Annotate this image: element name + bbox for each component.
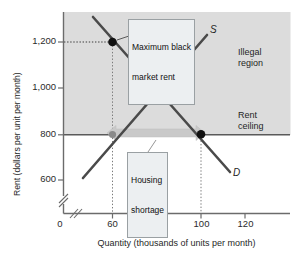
quantity-demanded-marker bbox=[197, 130, 206, 139]
supply-curve-label: S bbox=[210, 24, 217, 35]
rent-ceiling-label-line2: ceiling bbox=[238, 121, 264, 131]
y-tick-label-800: 800 bbox=[16, 129, 56, 140]
rent-ceiling-label-line1: Rent bbox=[238, 110, 257, 120]
housing-shortage-callout-line1: Housing bbox=[131, 175, 164, 185]
max-black-market-rent-callout: Maximum black market rent bbox=[128, 19, 195, 105]
x-tick-label-120: 120 bbox=[234, 219, 257, 230]
x-tick-label-0: 0 bbox=[52, 219, 68, 230]
x-tick-label-100: 100 bbox=[190, 219, 213, 230]
housing-shortage-callout-line2: shortage bbox=[131, 205, 164, 215]
y-tick-label-600: 600 bbox=[16, 174, 56, 185]
max-black-market-rent-marker bbox=[108, 38, 117, 47]
x-tick-label-60: 60 bbox=[103, 219, 122, 230]
x-axis-title: Quantity (thousands of units per month) bbox=[63, 238, 290, 248]
y-tick-marks bbox=[58, 42, 64, 180]
housing-shortage-leader-line bbox=[148, 140, 156, 152]
max-rent-callout-line2: market rent bbox=[132, 72, 191, 82]
demand-curve-label: D bbox=[233, 167, 240, 178]
housing-shortage-callout: Housing shortage bbox=[127, 152, 168, 238]
illegal-region-label-line2: region bbox=[238, 58, 263, 68]
illegal-region-label-line1: Illegal bbox=[238, 47, 262, 57]
y-axis-title: Rent (dollars per unit per month) bbox=[12, 72, 22, 196]
rent-ceiling-chart: 1,200 1,000 800 600 0 60 80 100 120 Rent… bbox=[0, 0, 303, 258]
max-rent-callout-line1: Maximum black bbox=[132, 42, 191, 52]
y-tick-label-1200: 1,200 bbox=[16, 36, 56, 47]
y-tick-label-1000: 1,000 bbox=[16, 82, 56, 93]
quantity-supplied-marker bbox=[109, 131, 116, 138]
